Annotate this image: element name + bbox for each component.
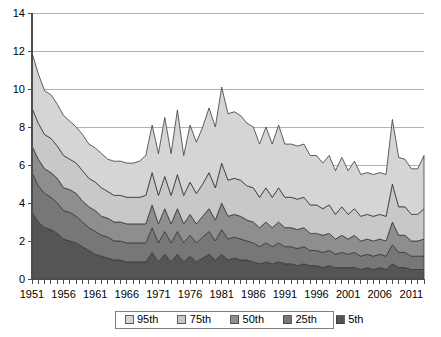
- x-tick-label: 1976: [178, 288, 202, 300]
- y-tick-label: 10: [13, 83, 25, 95]
- legend-label-25th: 25th: [295, 313, 316, 325]
- x-tick-label: 1986: [241, 288, 265, 300]
- legend-label-95th: 95th: [137, 313, 158, 325]
- x-axis-tick-marks: [32, 279, 424, 284]
- y-tick-label: 2: [19, 235, 25, 247]
- y-tick-label: 12: [13, 45, 25, 57]
- y-tick-label: 0: [19, 273, 25, 285]
- x-tick-label: 2011: [400, 288, 424, 300]
- x-tick-label: 1961: [83, 288, 107, 300]
- legend-label-5th: 5th: [348, 313, 363, 325]
- x-tick-label: 1991: [273, 288, 297, 300]
- x-tick-label: 1951: [20, 288, 44, 300]
- legend-label-75th: 75th: [190, 313, 211, 325]
- x-tick-label: 1996: [304, 288, 328, 300]
- legend-swatch-50th: [231, 316, 239, 324]
- x-tick-label: 1981: [209, 288, 233, 300]
- y-axis-tick-labels: 02468101214: [13, 7, 32, 285]
- chart-legend: 95th75th50th25th5th: [115, 311, 363, 328]
- legend-swatch-75th: [178, 316, 186, 324]
- legend-swatch-95th: [125, 316, 133, 324]
- x-tick-label: 2006: [367, 288, 391, 300]
- x-tick-label: 1971: [146, 288, 170, 300]
- stacked-area-chart: 02468101214 1951195619611966197119761981…: [0, 0, 441, 337]
- chart-canvas: 02468101214 1951195619611966197119761981…: [0, 0, 441, 337]
- y-tick-label: 14: [13, 7, 25, 19]
- plot-area-bands: [32, 53, 424, 279]
- legend-swatch-25th: [283, 316, 291, 324]
- y-tick-label: 4: [19, 197, 25, 209]
- x-tick-label: 2001: [336, 288, 360, 300]
- x-axis-tick-labels: 1951195619611966197119761981198619911996…: [20, 288, 423, 300]
- y-tick-label: 6: [19, 159, 25, 171]
- y-tick-label: 8: [19, 121, 25, 133]
- legend-label-50th: 50th: [243, 313, 264, 325]
- legend-swatch-5th: [336, 316, 344, 324]
- x-tick-label: 1956: [51, 288, 75, 300]
- x-tick-label: 1966: [115, 288, 139, 300]
